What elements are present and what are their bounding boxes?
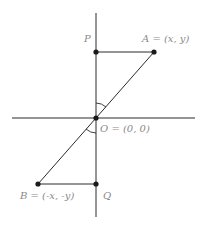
label-b: B = (-x, -y) bbox=[19, 190, 74, 201]
point-q bbox=[93, 181, 98, 186]
point-b bbox=[35, 181, 40, 186]
label-a: A = (x, y) bbox=[141, 33, 190, 44]
label-q: Q bbox=[103, 190, 111, 201]
point-o bbox=[93, 115, 98, 120]
point-p bbox=[93, 49, 98, 54]
angle-mark-qob bbox=[86, 129, 96, 133]
angle-mark-poa bbox=[96, 103, 106, 107]
point-a bbox=[151, 49, 156, 54]
label-p: P bbox=[83, 33, 91, 44]
label-o: O = (0, 0) bbox=[100, 123, 150, 134]
diagram-canvas: P A = (x, y) O = (0, 0) B = (-x, -y) Q bbox=[0, 0, 205, 226]
